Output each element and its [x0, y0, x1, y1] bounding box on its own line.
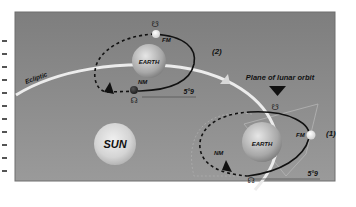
earth-bottom-label: EARTH [252, 141, 273, 147]
angle-top-label: 5°9 [183, 88, 194, 95]
angle-bottom-label: 5°9 [307, 170, 318, 177]
plane-of-lunar-orbit-label: Plane of lunar orbit [246, 73, 315, 82]
descending-node-top-icon: ☋ [151, 20, 158, 29]
lunar-orbit-diagram: SUN EARTH FM NM ☋ ☊ 5°9 (2) Ecliptic Pla… [0, 0, 356, 207]
earth-top-label: EARTH [139, 59, 160, 65]
full-moon-top [152, 30, 160, 38]
fm-bottom-label: FM [296, 132, 306, 138]
descending-node-bottom-icon: ☋ [271, 103, 278, 112]
position-2-label: (2) [212, 47, 222, 56]
ascending-node-top-icon: ☊ [130, 96, 137, 105]
nm-top-label: NM [138, 79, 148, 85]
full-moon-bottom [307, 131, 316, 140]
ascending-node-bottom-icon: ☊ [247, 176, 254, 185]
fm-top-label: FM [162, 37, 172, 43]
nm-bottom-label: NM [214, 150, 224, 156]
new-moon-top [130, 86, 138, 94]
sun-label: SUN [103, 138, 127, 150]
position-1-label: (1) [326, 129, 336, 138]
